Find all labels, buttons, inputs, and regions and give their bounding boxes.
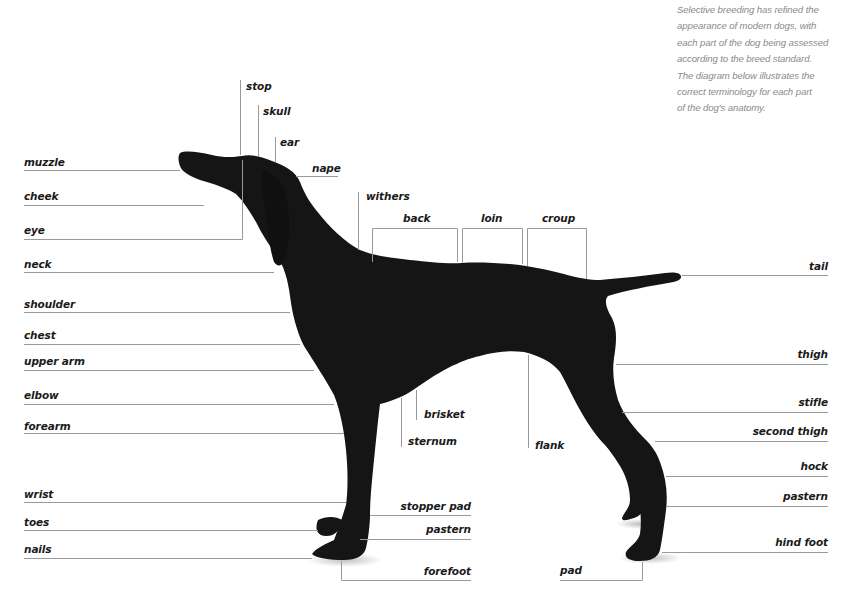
intro-line: according to the breed standard. <box>677 51 855 67</box>
label-hind-pastern: pastern <box>783 490 828 502</box>
label-sternum: sternum <box>408 435 457 447</box>
label-loin: loin <box>481 212 503 224</box>
label-second-thigh: second thigh <box>753 425 828 437</box>
bracket-loin <box>463 229 523 265</box>
label-elbow: elbow <box>24 389 59 401</box>
label-cheek: cheek <box>24 190 58 202</box>
intro-paragraph: Selective breeding has refined the appea… <box>677 2 855 117</box>
label-hind-foot: hind foot <box>775 536 828 548</box>
label-thigh: thigh <box>797 348 828 360</box>
label-pad: pad <box>560 564 582 576</box>
intro-line: Selective breeding has refined the <box>677 2 855 18</box>
intro-line: correct terminology for each part <box>677 84 855 100</box>
label-brisket: brisket <box>424 408 465 420</box>
label-front-pastern: pastern <box>426 523 471 535</box>
label-stop: stop <box>246 80 272 92</box>
intro-line: The diagram below illustrates the <box>677 68 855 84</box>
label-flank: flank <box>535 439 564 451</box>
label-tail: tail <box>809 260 828 272</box>
label-skull: skull <box>263 105 290 117</box>
label-nape: nape <box>312 162 341 174</box>
intro-line: each part of the dog being assessed <box>677 35 855 51</box>
label-back: back <box>403 212 430 224</box>
label-forefoot: forefoot <box>424 565 471 577</box>
label-croup: croup <box>542 212 575 224</box>
label-shoulder: shoulder <box>24 298 75 310</box>
label-toes: toes <box>24 516 49 528</box>
label-nails: nails <box>24 543 52 555</box>
dog-anatomy-diagram: Selective breeding has refined the appea… <box>0 0 858 613</box>
label-neck: neck <box>24 258 51 270</box>
label-upper-arm: upper arm <box>24 355 85 367</box>
label-hock: hock <box>801 460 829 472</box>
label-stopper-pad: stopper pad <box>401 500 472 512</box>
label-forearm: forearm <box>24 420 71 432</box>
label-muzzle: muzzle <box>24 156 65 168</box>
intro-line: of the dog's anatomy. <box>677 100 855 116</box>
label-chest: chest <box>24 329 56 341</box>
label-ear: ear <box>280 136 299 148</box>
intro-line: appearance of modern dogs, with <box>677 18 855 34</box>
label-wrist: wrist <box>24 488 53 500</box>
label-eye: eye <box>24 224 45 236</box>
label-withers: withers <box>366 190 410 202</box>
label-stifle: stifle <box>798 396 828 408</box>
